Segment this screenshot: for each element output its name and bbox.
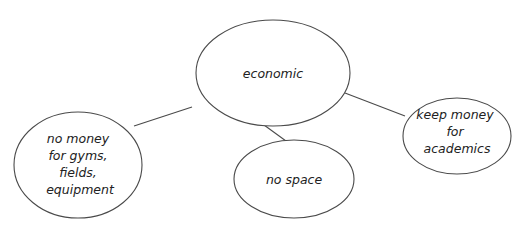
label-line: academics bbox=[424, 141, 491, 156]
label-line: economic bbox=[243, 66, 303, 81]
edge-economic-to-no-money-sports bbox=[134, 107, 192, 126]
edge-economic-to-no-space bbox=[264, 125, 286, 141]
node-no-money-sports: no money for gyms, fields, equipment bbox=[14, 112, 142, 218]
node-no-space: no space bbox=[234, 140, 354, 218]
label-line: no money bbox=[47, 131, 110, 146]
edge-economic-to-keep-money-academics bbox=[345, 93, 405, 116]
label-line: no space bbox=[266, 172, 323, 187]
node-no-space-label: no space bbox=[266, 172, 323, 187]
label-line: for bbox=[446, 124, 464, 139]
label-line: keep money bbox=[416, 107, 494, 122]
label-line: for gyms, bbox=[48, 148, 107, 163]
label-line: fields, bbox=[59, 165, 97, 180]
concept-map: economic no money for gyms, fields, equi… bbox=[0, 0, 525, 230]
node-economic: economic bbox=[196, 20, 350, 126]
node-economic-label: economic bbox=[243, 66, 303, 81]
node-keep-money-academics: keep money for academics bbox=[403, 98, 511, 174]
label-line: equipment bbox=[46, 182, 115, 197]
